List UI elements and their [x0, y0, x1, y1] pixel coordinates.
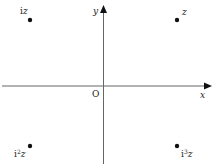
label-z: z	[181, 7, 187, 17]
label-iz: iz	[20, 6, 28, 16]
y-axis-arrow-icon	[100, 5, 107, 13]
point-z	[175, 18, 179, 22]
point-i2z	[28, 144, 32, 148]
point-i3z	[175, 144, 179, 148]
origin-label: O	[92, 89, 99, 99]
complex-plane-diagram: y x O iz z i2z i3z	[0, 0, 216, 164]
point-iz	[28, 18, 32, 22]
label-i3z: i3z	[181, 148, 193, 159]
y-axis-label: y	[92, 6, 99, 16]
x-axis-arrow-icon	[204, 83, 212, 90]
label-i2z: i2z	[14, 148, 26, 159]
x-axis-label: x	[200, 90, 205, 100]
